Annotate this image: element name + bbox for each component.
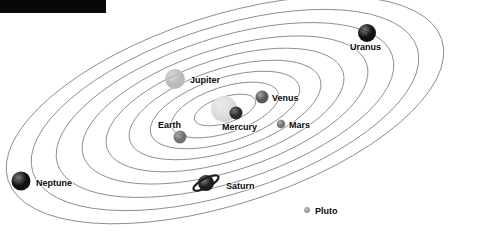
solar-system-diagram: MercuryVenusEarthMarsJupiterSaturnUranus… bbox=[0, 0, 479, 234]
jupiter-label: Jupiter bbox=[190, 75, 221, 85]
earth-body bbox=[174, 131, 187, 144]
saturn-body bbox=[198, 175, 214, 191]
neptune-label: Neptune bbox=[36, 178, 72, 188]
mercury-label: Mercury bbox=[222, 122, 257, 132]
mercury-body bbox=[230, 107, 243, 120]
saturn-label: Saturn bbox=[226, 181, 255, 191]
uranus-label: Uranus bbox=[350, 42, 381, 52]
pluto-label: Pluto bbox=[315, 206, 338, 216]
jupiter-body bbox=[165, 69, 185, 89]
mars-label: Mars bbox=[289, 120, 310, 130]
mars-body bbox=[277, 120, 285, 128]
venus-body bbox=[256, 91, 269, 104]
venus-label: Venus bbox=[272, 93, 299, 103]
uranus-body bbox=[358, 24, 376, 42]
orrery-canvas: MercuryVenusEarthMarsJupiterSaturnUranus… bbox=[0, 0, 479, 234]
neptune-body bbox=[12, 172, 31, 191]
pluto-body bbox=[304, 207, 310, 213]
earth-label: Earth bbox=[158, 120, 181, 130]
